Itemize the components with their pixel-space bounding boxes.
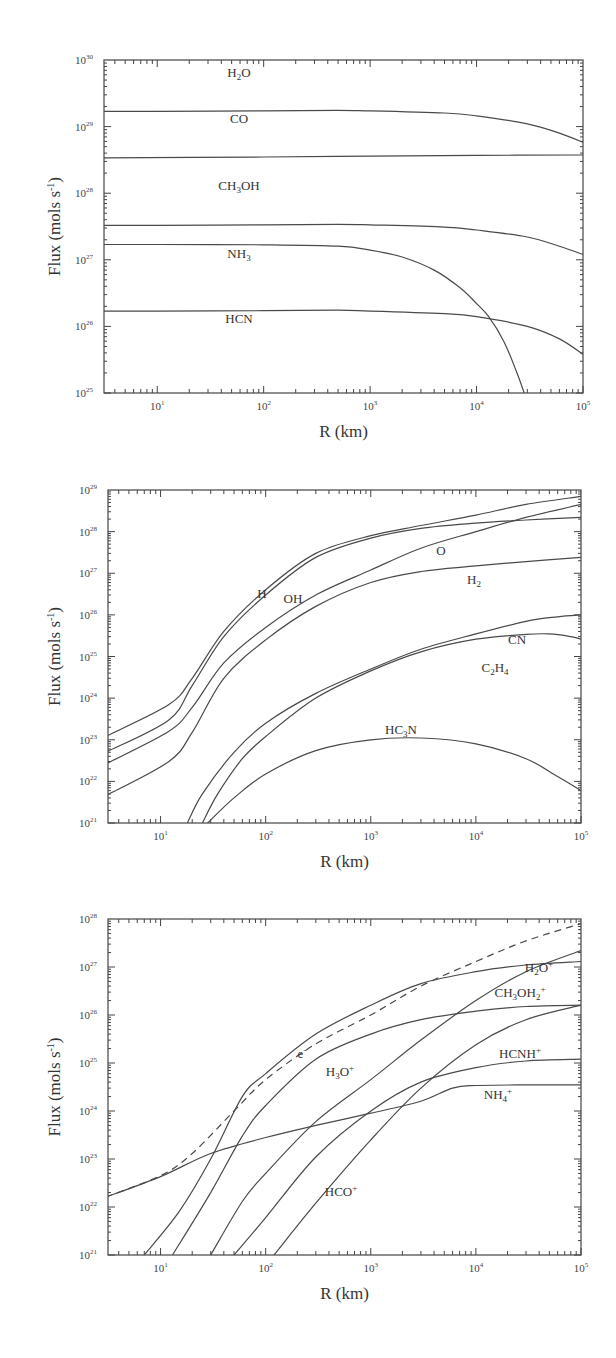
tick-label: 105 (574, 829, 589, 842)
tick-label: 103 (363, 399, 378, 412)
tick-label: 1030 (75, 53, 94, 66)
tick-label: 101 (150, 399, 165, 412)
series-line-ch3oh2- (173, 1005, 582, 1255)
series-label: HCN (225, 311, 253, 326)
series-line-hc3n (208, 738, 581, 823)
tick-label: 1027 (75, 253, 94, 266)
tick-label: 1021 (79, 1248, 98, 1261)
series-label: CN (508, 632, 527, 647)
tick-label: 1028 (75, 186, 94, 199)
chart-panel-neutral-products: 1011021031041051021102210231024102510261… (45, 483, 589, 871)
tick-label: 1022 (79, 1200, 98, 1213)
series-label: NH3 (227, 246, 251, 263)
series-label: O (436, 543, 445, 558)
tick-label: 1023 (79, 1152, 98, 1165)
y-axis-title: Flux (mols s-1) (45, 1037, 64, 1136)
tick-label: 104 (469, 1261, 484, 1274)
series-label: H3O+ (326, 1063, 354, 1081)
series-line-h (106, 496, 581, 736)
plot-frame (108, 490, 581, 823)
series-line-hcnh- (234, 1059, 581, 1255)
tick-label: 102 (258, 1261, 273, 1274)
tick-label: 1022 (79, 774, 98, 787)
series-line-hco- (274, 1005, 581, 1255)
tick-label: 101 (153, 829, 168, 842)
tick-label: 1021 (79, 816, 98, 829)
figure-canvas: 101102103104105102510261027102810291030R… (0, 0, 616, 1358)
tick-label: 1024 (79, 691, 98, 704)
series-line-hcn (102, 310, 583, 354)
tick-label: 103 (364, 1261, 379, 1274)
tick-label: 1025 (75, 386, 94, 399)
series-line-h2o (102, 110, 583, 142)
x-axis-title: R (km) (320, 1284, 369, 1303)
series-label: CO (230, 111, 248, 126)
tick-label: 1027 (79, 566, 98, 579)
y-axis-title: Flux (mols s-1) (45, 607, 64, 706)
tick-label: 102 (256, 399, 271, 412)
tick-label: 1025 (79, 650, 98, 663)
series-label: HCO+ (325, 1183, 358, 1199)
x-axis-title: R (km) (320, 852, 369, 871)
tick-label: 1027 (79, 960, 98, 973)
series-label: HCNH+ (499, 1045, 541, 1061)
series-line-nh4- (106, 1085, 581, 1197)
tick-label: 1029 (75, 120, 94, 133)
tick-label: 105 (574, 1261, 589, 1274)
tick-label: 101 (153, 1261, 168, 1274)
series-label: e- (298, 1045, 307, 1061)
series-label: H2 (467, 572, 481, 589)
series-line-co (102, 155, 583, 158)
series-line-ch3oh (102, 224, 583, 254)
tick-label: 103 (364, 829, 379, 842)
series-label: C2H4 (481, 660, 509, 677)
series-line-h2 (106, 557, 581, 795)
chart-panel-ions: 1011021031041051021102210231024102510261… (45, 912, 589, 1303)
tick-label: 1024 (79, 1104, 98, 1117)
tick-label: 1023 (79, 733, 98, 746)
series-line-nh3 (102, 244, 525, 393)
tick-label: 104 (469, 399, 484, 412)
x-axis-title: R (km) (319, 422, 368, 441)
tick-label: 104 (469, 829, 484, 842)
series-label: H (257, 586, 266, 601)
series-line-h3o- (144, 962, 581, 1256)
series-label: HC3N (385, 722, 418, 739)
series-label: H2O+ (525, 959, 553, 977)
tick-label: 1026 (79, 1008, 98, 1021)
tick-label: 1026 (75, 319, 94, 332)
series-label: OH (284, 591, 303, 606)
series-label: CH3OH2+ (495, 984, 546, 1002)
chart-panel-neutral-parents: 101102103104105102510261027102810291030R… (45, 53, 591, 441)
series-label: CH3OH (218, 178, 259, 195)
tick-label: 1028 (79, 525, 98, 538)
tick-label: 1025 (79, 1056, 98, 1069)
tick-label: 1029 (79, 483, 98, 496)
tick-label: 1026 (79, 608, 98, 621)
tick-label: 102 (258, 829, 273, 842)
tick-label: 105 (576, 399, 591, 412)
tick-label: 1028 (79, 912, 98, 925)
series-label: NH4+ (484, 1086, 512, 1104)
series-label: H2O (227, 65, 250, 82)
y-axis-title: Flux (mols s-1) (45, 177, 64, 276)
